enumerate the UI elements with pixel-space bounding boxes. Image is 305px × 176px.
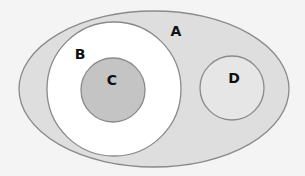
set-d-label: D [228, 70, 240, 86]
euler-diagram: A B C D [0, 0, 305, 176]
set-b-label: B [75, 46, 86, 62]
set-a-label: A [171, 23, 182, 39]
set-c-label: C [107, 72, 117, 88]
set-c-circle [81, 58, 145, 122]
set-d-circle [200, 56, 264, 120]
diagram-canvas: A B C D [0, 0, 305, 176]
